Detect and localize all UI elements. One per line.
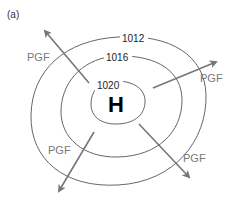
high-pressure-center: H [108,92,124,117]
high-pressure-diagram: 1012 1016 1020 H PGF PGF PGF PGF [0,0,242,216]
pgf-label-northwest: PGF [27,51,50,63]
isobar-label-1012: 1012 [122,33,145,44]
pgf-arrow-southeast-icon [139,124,189,177]
pgf-arrow-southwest-icon [59,132,94,191]
pgf-label-southwest: PGF [48,144,71,156]
isobar-label-1020: 1020 [97,80,120,91]
pgf-arrow-northwest-icon [45,31,89,83]
pgf-label-southeast: PGF [183,152,206,164]
isobar-label-1016: 1016 [106,52,129,63]
pgf-label-northeast: PGF [200,72,223,84]
